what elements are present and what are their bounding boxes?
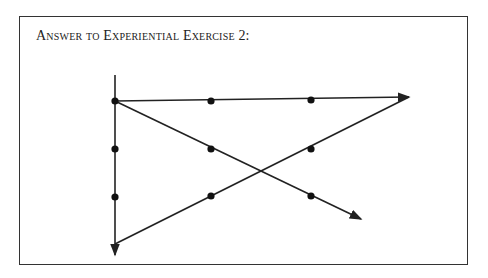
nine-dot-diagram bbox=[0, 0, 488, 278]
diagram-dots bbox=[111, 96, 314, 200]
dot-5 bbox=[207, 145, 214, 152]
dot-7 bbox=[111, 193, 118, 200]
dot-4 bbox=[111, 145, 118, 152]
dot-3 bbox=[307, 96, 314, 103]
line-segment-4 bbox=[115, 97, 409, 244]
line-segment-2 bbox=[115, 97, 409, 101]
dot-9 bbox=[307, 192, 314, 199]
dot-1 bbox=[111, 97, 118, 104]
dot-6 bbox=[307, 145, 314, 152]
dot-8 bbox=[207, 192, 214, 199]
line-segment-3 bbox=[115, 101, 361, 219]
diagram-lines bbox=[115, 75, 409, 255]
dot-2 bbox=[207, 97, 214, 104]
